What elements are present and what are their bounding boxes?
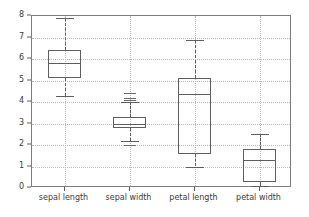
- x-tick-label-sepal-length: sepal length: [39, 193, 88, 202]
- box-petal-width: [32, 16, 290, 186]
- x-axis: sepal lengthsepal widthpetal lengthpetal…: [31, 187, 291, 217]
- x-tick-label-petal-width: petal width: [236, 193, 281, 202]
- boxplot-figure: 012345678 sepal lengthsepal widthpetal l…: [0, 0, 309, 217]
- x-tick-mark: [129, 187, 130, 191]
- cap-upper: [251, 134, 269, 135]
- box-rect: [243, 149, 276, 181]
- y-tick-label: 5: [19, 76, 24, 84]
- plot-area: [31, 15, 291, 187]
- median-line: [243, 160, 276, 161]
- x-tick-label-petal-length: petal length: [169, 193, 217, 202]
- x-tick-mark: [194, 187, 195, 191]
- y-tick-label: 2: [19, 140, 24, 148]
- y-axis: 012345678: [0, 0, 31, 217]
- y-tick-label: 7: [19, 33, 24, 41]
- y-tick-label: 3: [19, 119, 24, 127]
- x-tick-mark: [259, 187, 260, 191]
- y-tick-label: 1: [19, 162, 24, 170]
- y-tick-label: 8: [19, 11, 24, 19]
- y-tick-label: 0: [19, 183, 24, 191]
- x-tick-mark: [64, 187, 65, 191]
- whisker-upper: [260, 134, 261, 149]
- y-tick-label: 6: [19, 54, 24, 62]
- x-tick-label-sepal-width: sepal width: [106, 193, 152, 202]
- y-tick-label: 4: [19, 97, 24, 105]
